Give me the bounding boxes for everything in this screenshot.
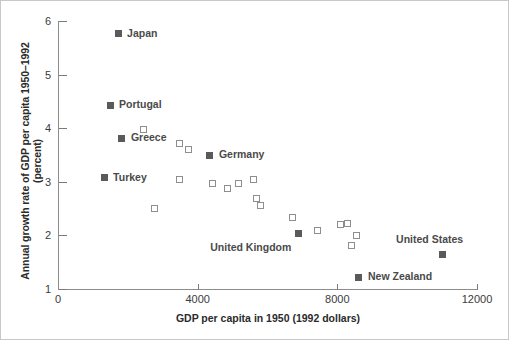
data-point-label: New Zealand xyxy=(368,271,432,282)
data-point-open xyxy=(314,227,321,234)
data-point-label: Portugal xyxy=(119,99,162,110)
data-point-open xyxy=(257,202,264,209)
data-point-label: United States xyxy=(396,234,463,245)
x-axis-tick xyxy=(198,284,199,290)
data-point-filled xyxy=(107,102,114,109)
data-point-label: United Kingdom xyxy=(210,242,291,253)
x-axis-tick-label: 8000 xyxy=(307,294,367,305)
y-axis-tick xyxy=(59,75,67,76)
x-axis-title: GDP per capita in 1950 (1992 dollars) xyxy=(58,312,478,324)
x-axis-tick-label: 12000 xyxy=(447,294,507,305)
data-point-filled xyxy=(118,135,125,142)
x-axis-line xyxy=(58,289,478,290)
y-axis-line xyxy=(58,21,59,290)
data-point-open xyxy=(344,220,351,227)
y-axis-tick xyxy=(59,289,67,290)
y-axis-tick xyxy=(59,182,67,183)
data-point-open xyxy=(151,205,158,212)
data-point-label: Greece xyxy=(131,132,167,143)
x-axis-tick-label: 0 xyxy=(28,294,88,305)
data-point-open xyxy=(253,195,260,202)
data-point-open xyxy=(250,176,257,183)
y-axis-tick xyxy=(59,235,67,236)
data-point-open xyxy=(348,242,355,249)
data-point-open xyxy=(209,180,216,187)
data-point-open xyxy=(176,176,183,183)
data-point-filled xyxy=(295,230,302,237)
y-axis-tick xyxy=(59,128,67,129)
data-point-filled xyxy=(101,174,108,181)
x-axis-tick xyxy=(337,284,338,290)
x-axis-tick-label: 4000 xyxy=(168,294,228,305)
data-point-open xyxy=(176,140,183,147)
data-point-open xyxy=(235,180,242,187)
y-axis-tick xyxy=(59,21,67,22)
plot-area: 123456 04000800012000 JapanPortugalGreec… xyxy=(1,1,509,340)
data-point-open xyxy=(224,185,231,192)
data-point-label: Germany xyxy=(219,149,265,160)
data-point-filled xyxy=(115,30,122,37)
data-point-filled xyxy=(355,274,362,281)
x-axis-tick xyxy=(477,284,478,290)
y-axis-tick-label: 6 xyxy=(29,16,51,27)
scatter-plot-figure: 123456 04000800012000 JapanPortugalGreec… xyxy=(0,0,509,340)
data-point-label: Turkey xyxy=(113,172,147,183)
y-axis-title: Annual growth rate of GDP per capita 195… xyxy=(19,36,43,286)
data-point-open xyxy=(289,214,296,221)
data-point-open xyxy=(185,146,192,153)
data-point-open xyxy=(353,232,360,239)
data-point-label: Japan xyxy=(127,28,157,39)
data-point-filled xyxy=(206,152,213,159)
data-point-filled xyxy=(439,251,446,258)
